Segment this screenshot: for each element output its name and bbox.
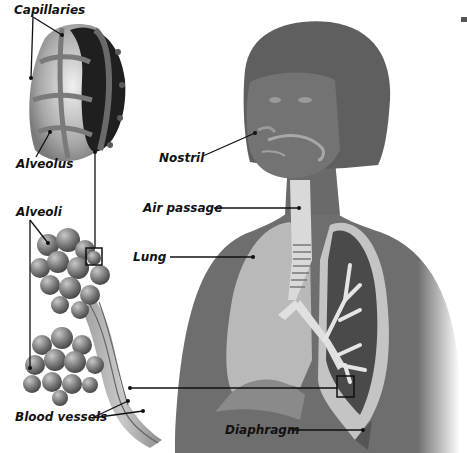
eye-right — [298, 97, 312, 103]
label-air-passage: Air passage — [143, 202, 222, 214]
label-alveoli: Alveoli — [16, 206, 62, 218]
label-alveolus: Alveolus — [16, 158, 73, 170]
alveoli-cluster-lower — [23, 327, 104, 406]
label-nostril: Nostril — [159, 152, 204, 164]
label-lung: Lung — [133, 251, 166, 263]
anatomy-illustration — [0, 0, 467, 453]
alveolus-cutaway — [29, 24, 125, 161]
page-corner-mark — [461, 17, 467, 22]
head — [244, 21, 391, 178]
bronchiole-vessel — [82, 300, 162, 448]
label-blood-vessels: Blood vessels — [15, 411, 107, 423]
label-capillaries: Capillaries — [14, 4, 85, 16]
eye-left — [269, 97, 281, 103]
label-diaphragm: Diaphragm — [225, 424, 299, 436]
respiratory-diagram: Capillaries Alveolus Alveoli Blood vesse… — [0, 0, 467, 453]
